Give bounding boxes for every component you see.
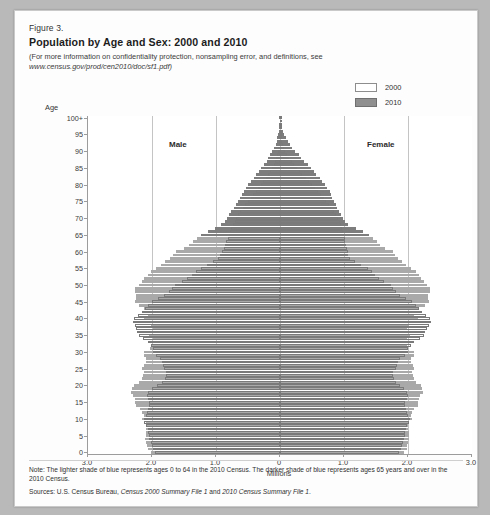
bar-2000-female-age-62: [280, 244, 346, 247]
bar-2000-male-age-7: [148, 428, 280, 431]
bar-2000-female-age-0: [280, 451, 399, 454]
bar-2000-female-age-49: [280, 287, 393, 290]
bar-2000-male-age-73: [243, 207, 280, 210]
bar-2000-male-age-2: [152, 444, 280, 447]
bar-2000-female-age-44: [280, 304, 416, 307]
bar-2000-female-age-1: [280, 448, 401, 451]
y-tick-label-15: 15: [47, 398, 83, 407]
bar-2000-male-age-64: [228, 237, 280, 240]
bar-2000-male-age-0: [155, 451, 280, 454]
bar-2000-female-age-72: [280, 210, 334, 213]
bar-2000-female-age-99: [280, 120, 282, 123]
bar-2000-male-age-8: [146, 424, 280, 427]
bar-2000-female-age-6: [280, 431, 405, 434]
bar-2000-female-age-55: [280, 267, 368, 270]
sources-prefix: Sources: U.S. Census Bureau,: [29, 488, 121, 495]
y-tick-label-60: 60: [47, 247, 83, 256]
pyramid-plot: [87, 116, 472, 455]
bar-2000-male-age-62: [225, 244, 280, 247]
bar-2000-female-age-35: [280, 334, 424, 337]
bar-2000-male-age-30: [153, 351, 280, 354]
y-tick-60: [84, 252, 87, 253]
bar-2000-male-age-52: [187, 277, 280, 280]
bar-2000-male-age-85: [272, 167, 280, 170]
bar-2000-female-age-9: [280, 421, 409, 424]
bar-2000-female-age-11: [280, 414, 408, 417]
bar-2000-female-age-16: [280, 398, 407, 401]
bar-2000-male-age-49: [172, 287, 280, 290]
bar-2000-female-age-59: [280, 254, 348, 257]
y-tick-label-45: 45: [47, 297, 83, 306]
y-tick-55: [84, 268, 87, 269]
x-tick-3: [279, 454, 280, 457]
bar-2000-female-age-24: [280, 371, 393, 374]
bar-2000-male-age-53: [192, 274, 280, 277]
bar-2000-female-age-63: [280, 240, 345, 243]
bar-2000-female-age-43: [280, 307, 419, 310]
bar-2000-male-age-61: [224, 247, 280, 250]
bar-2000-male-age-76: [251, 197, 280, 200]
bar-2000-male-age-15: [149, 401, 280, 404]
bar-2000-male-age-24: [166, 371, 280, 374]
bar-2000-female-age-27: [280, 361, 398, 364]
bar-2000-male-age-5: [149, 434, 280, 437]
bar-2000-male-age-69: [235, 220, 280, 223]
y-tick-95: [84, 134, 87, 135]
bar-2000-male-age-32: [151, 344, 280, 347]
bar-2000-male-age-59: [220, 254, 280, 257]
bar-2000-female-age-12: [280, 411, 407, 414]
x-tick-4: [343, 454, 344, 457]
bar-2000-male-age-3: [151, 441, 280, 444]
bar-2000-female-age-15: [280, 401, 405, 404]
y-tick-90: [84, 151, 87, 152]
y-tick-30: [84, 352, 87, 353]
bar-2000-female-age-26: [280, 364, 397, 367]
bar-2000-female-age-77: [280, 193, 321, 196]
bar-2000-male-age-84: [270, 170, 280, 173]
bar-2000-female-age-42: [280, 311, 422, 314]
bar-2000-male-age-20: [157, 384, 280, 387]
bar-2000-female-age-46: [280, 297, 406, 300]
bar-2000-female-age-21: [280, 381, 396, 384]
bar-2000-female-age-56: [280, 264, 361, 267]
bar-2000-male-age-66: [230, 230, 280, 233]
bar-2000-female-age-95: [280, 133, 282, 136]
y-tick-label-65: 65: [47, 230, 83, 239]
bar-2000-male-age-31: [153, 347, 280, 350]
y-tick-label-0: 0: [47, 448, 83, 457]
bar-2000-male-age-57: [213, 260, 280, 263]
bar-2000-female-age-64: [280, 237, 345, 240]
bar-2000-female-age-19: [280, 387, 404, 390]
bar-2000-female-age-14: [280, 404, 405, 407]
bar-2000-female-age-32: [280, 344, 411, 347]
y-tick-label-55: 55: [47, 264, 83, 273]
bar-2000-female-age-68: [280, 223, 341, 226]
bar-2000-male-age-55: [201, 267, 280, 270]
y-tick-85: [84, 168, 87, 169]
bar-2000-female-age-36: [280, 331, 425, 334]
y-tick-label-35: 35: [47, 331, 83, 340]
bar-2000-male-age-27: [162, 361, 280, 364]
figure-sources: Sources: U.S. Census Bureau, Census 2000…: [29, 488, 463, 497]
bar-2000-male-age-12: [147, 411, 280, 414]
bar-2000-female-age-78: [280, 190, 318, 193]
bar-2000-female-age-98: [280, 123, 282, 126]
bar-2000-female-age-58: [280, 257, 350, 260]
bar-2000-male-age-72: [240, 210, 280, 213]
bar-2000-male-age-21: [162, 381, 280, 384]
bar-2000-male-age-74: [245, 203, 280, 206]
bar-2000-female-age-96: [280, 130, 282, 133]
bar-2000-male-age-9: [144, 421, 280, 424]
bar-2000-female-age-70: [280, 217, 338, 220]
bar-2000-male-age-68: [233, 223, 280, 226]
y-tick-40: [84, 318, 87, 319]
bar-2000-male-age-51: [182, 280, 280, 283]
bar-2000-male-age-28: [160, 357, 280, 360]
bar-2000-male-age-77: [253, 193, 280, 196]
bar-2000-male-age-75: [248, 200, 280, 203]
y-tick-label-30: 30: [47, 347, 83, 356]
bar-2000-female-age-80: [280, 183, 312, 186]
bar-2000-female-age-34: [280, 337, 420, 340]
bar-2000-female-age-60: [280, 250, 348, 253]
y-tick-label-40: 40: [47, 314, 83, 323]
